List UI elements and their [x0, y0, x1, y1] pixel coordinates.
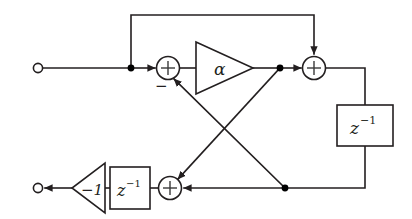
junction-input-split — [128, 65, 135, 72]
path-diagonal-feedback-down — [178, 68, 280, 179]
delay-right-exponent: −1 — [360, 114, 376, 127]
junction-alpha-out — [277, 65, 284, 72]
gain-minus-one-label: −1 — [81, 181, 103, 199]
adder-left-sign: − — [155, 77, 168, 95]
output-terminal[interactable] — [33, 183, 42, 192]
adder-bottom — [159, 177, 182, 200]
adder-right — [303, 57, 326, 80]
gain-alpha-label: α — [214, 59, 226, 79]
delay-bottom-base: z — [116, 181, 126, 200]
path-adder-right-to-delay — [325, 68, 365, 105]
path-delay-to-bottom-rail — [285, 146, 365, 188]
delay-bottom-exponent: −1 — [126, 178, 141, 189]
signal-flow-diagram: α −1 z −1 z −1 − — [0, 0, 412, 219]
diagram-canvas: α −1 z −1 z −1 − — [0, 0, 412, 219]
path-diagonal-feedback-up — [174, 79, 285, 188]
input-terminal[interactable] — [33, 63, 42, 72]
junction-bottom-rail — [282, 185, 289, 192]
delay-right-base: z — [349, 118, 360, 138]
